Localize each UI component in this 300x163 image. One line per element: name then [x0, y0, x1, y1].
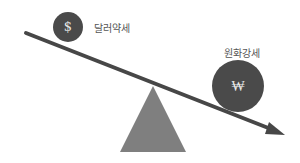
seesaw-diagram	[0, 0, 300, 163]
fulcrum-triangle	[120, 86, 186, 152]
won-strong-label: 원화강세	[224, 45, 260, 60]
dollar-symbol: $	[58, 18, 78, 36]
dollar-weak-label: 달러약세	[94, 20, 130, 35]
won-symbol: ₩	[226, 77, 250, 95]
arrow-head-icon	[265, 122, 285, 135]
